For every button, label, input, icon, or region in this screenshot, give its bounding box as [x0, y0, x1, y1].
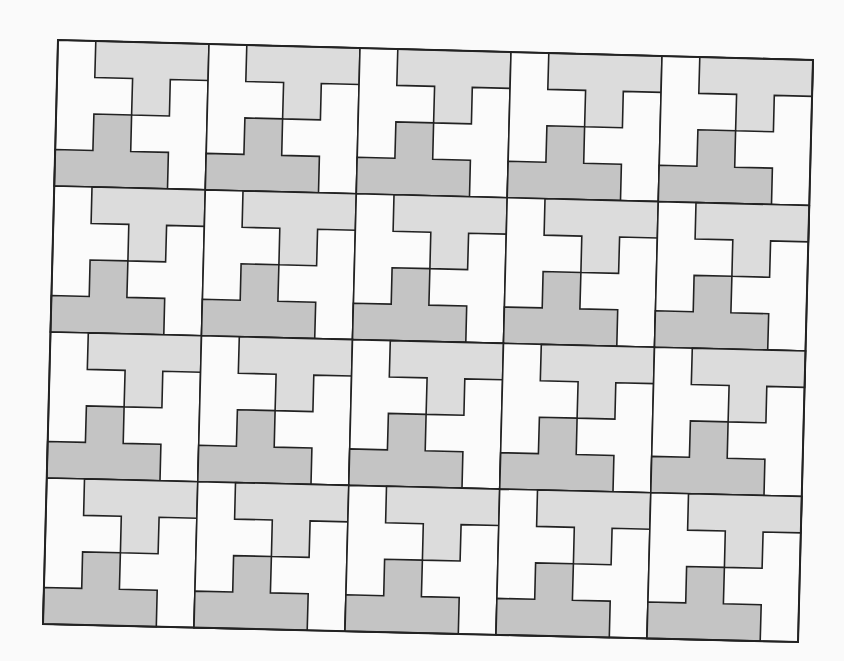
tessellation-figure: [0, 0, 844, 661]
